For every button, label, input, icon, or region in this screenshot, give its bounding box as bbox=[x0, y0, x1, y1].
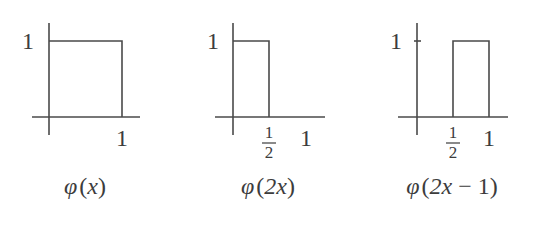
panel-phi-2x-minus-1: 1 1 2 1 φ(2x−1) bbox=[390, 23, 508, 199]
x-tick-half-numerator: 1 bbox=[265, 123, 274, 142]
caption: φ(x) bbox=[64, 173, 106, 199]
caption-const: 1 bbox=[478, 173, 490, 199]
x-tick-label-one: 1 bbox=[483, 125, 495, 151]
x-tick-half-denominator: 2 bbox=[449, 143, 458, 162]
caption-open: ( bbox=[79, 173, 87, 199]
panel-phi-x: 1 1 φ(x) bbox=[22, 23, 140, 199]
y-tick-label: 1 bbox=[22, 28, 34, 54]
x-tick-label-one: 1 bbox=[300, 125, 312, 151]
panel-phi-2x: 1 1 2 1 φ(2x) bbox=[207, 23, 325, 199]
caption: φ(2x−1) bbox=[406, 173, 497, 199]
haar-diagram: 1 1 φ(x) 1 1 2 1 φ(2x) 1 1 2 1 φ(2x−1) bbox=[0, 0, 536, 234]
caption-open: ( bbox=[422, 173, 430, 199]
box-function bbox=[49, 41, 122, 117]
y-tick-label: 1 bbox=[390, 28, 402, 54]
caption-func: φ bbox=[241, 173, 254, 199]
caption-open: ( bbox=[256, 173, 264, 199]
x-tick-half-denominator: 2 bbox=[265, 143, 274, 162]
x-tick-label-one: 1 bbox=[116, 125, 128, 151]
box-function bbox=[453, 41, 489, 117]
caption-close: ) bbox=[98, 173, 106, 199]
caption-minus: − bbox=[458, 173, 472, 199]
box-function bbox=[233, 41, 269, 117]
caption-close: ) bbox=[287, 173, 295, 199]
caption-func: φ bbox=[406, 173, 419, 199]
caption-arg: x bbox=[86, 173, 98, 199]
caption-arg: 2x bbox=[430, 173, 453, 199]
y-tick-label: 1 bbox=[207, 28, 219, 54]
caption-func: φ bbox=[64, 173, 77, 199]
caption-arg: 2x bbox=[264, 173, 287, 199]
caption-close: ) bbox=[490, 173, 498, 199]
x-tick-half-numerator: 1 bbox=[449, 123, 458, 142]
caption: φ(2x) bbox=[241, 173, 295, 199]
